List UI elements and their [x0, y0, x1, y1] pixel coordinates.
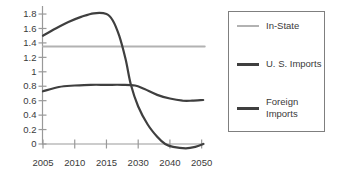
- legend-item-us-imports: U. S. Imports: [237, 58, 322, 71]
- series-u-s-imports: [43, 13, 203, 148]
- y-tick-label: 0.6: [23, 95, 36, 106]
- legend-swatch-in-state: [237, 25, 259, 27]
- legend-item-in-state: In-State: [237, 20, 322, 33]
- y-tick-label: 1.2: [23, 52, 36, 63]
- x-tick-label: 2015: [96, 157, 117, 168]
- legend-label-in-state: In-State: [266, 20, 299, 33]
- y-tick-label: 0.4: [23, 109, 36, 120]
- y-tick-label: 1.4: [23, 37, 36, 48]
- legend-swatch-foreign-imports: [237, 107, 259, 110]
- y-tick-label: 1.8: [23, 8, 36, 19]
- x-tick-label: 2030: [128, 157, 149, 168]
- x-tick-label: 2040: [159, 157, 180, 168]
- legend-label-us-imports: U. S. Imports: [266, 58, 321, 71]
- chart-figure: 1.81.61.41.210.80.60.40.2020052010201520…: [0, 0, 342, 175]
- x-tick-label: 2050: [191, 157, 212, 168]
- line-chart: 1.81.61.41.210.80.60.40.2020052010201520…: [0, 0, 230, 175]
- axes: [39, 6, 206, 149]
- y-tick-label: 1: [31, 66, 36, 77]
- legend: In-State U. S. Imports Foreign Imports: [228, 11, 325, 132]
- legend-label-foreign-imports: Foreign Imports: [266, 96, 298, 121]
- x-tick-label: 2005: [32, 157, 53, 168]
- legend-swatch-us-imports: [237, 63, 259, 66]
- series-foreign-imports: [43, 85, 203, 101]
- y-tick-label: 1.6: [23, 23, 36, 34]
- y-tick-label: 0.2: [23, 124, 36, 135]
- x-tick-label: 2010: [64, 157, 85, 168]
- y-tick-label: 0.8: [23, 80, 36, 91]
- y-tick-label: 0: [31, 138, 36, 149]
- legend-item-foreign-imports: Foreign Imports: [237, 96, 322, 121]
